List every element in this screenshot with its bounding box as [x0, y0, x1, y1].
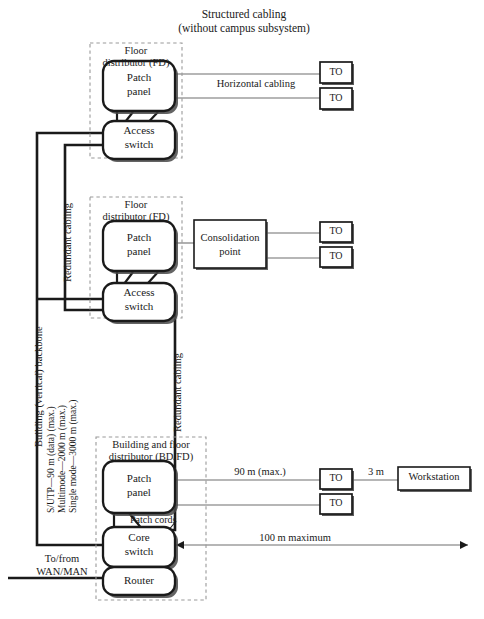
- node-patch-panel-mid[interactable]: [103, 221, 175, 271]
- node-patch-panel-top[interactable]: [103, 61, 175, 111]
- outlet-to-4[interactable]: [320, 247, 352, 267]
- label-backbone-spec-sutp: S/UTP—90 m (data) (max.): [46, 406, 56, 513]
- node-workstation[interactable]: [398, 467, 470, 490]
- node-access-switch-top[interactable]: [103, 121, 175, 159]
- outlet-to-3[interactable]: [320, 222, 352, 242]
- node-router[interactable]: [103, 567, 175, 595]
- label-redundant-cabling-left: Redundant cabling: [62, 203, 73, 282]
- node-core-switch[interactable]: [103, 527, 175, 567]
- outlet-to-2[interactable]: [320, 88, 352, 109]
- label-backbone-spec-multimode: Multimode—2000 m (max.): [57, 405, 67, 513]
- label-building-vertical-backbone: Building (vertical) backbone: [33, 326, 44, 447]
- node-consolidation-point[interactable]: [194, 220, 266, 268]
- diagram-canvas: Structured cabling (without campus subsy…: [0, 0, 484, 619]
- label-redundant-cabling-right: Redundant cabling: [172, 353, 183, 432]
- outlet-to-1[interactable]: [320, 62, 352, 83]
- structured-cabling-diagram: [0, 0, 484, 619]
- telecom-outlets: [320, 62, 354, 516]
- arrow-right-head: [460, 541, 468, 549]
- label-backbone-spec-singlemode: Single mode—3000 m (max.): [68, 400, 78, 513]
- outlet-to-6[interactable]: [320, 494, 352, 514]
- outlet-to-5[interactable]: [320, 469, 352, 489]
- node-patch-panel-bottom[interactable]: [103, 461, 175, 513]
- node-access-switch-mid[interactable]: [103, 283, 175, 321]
